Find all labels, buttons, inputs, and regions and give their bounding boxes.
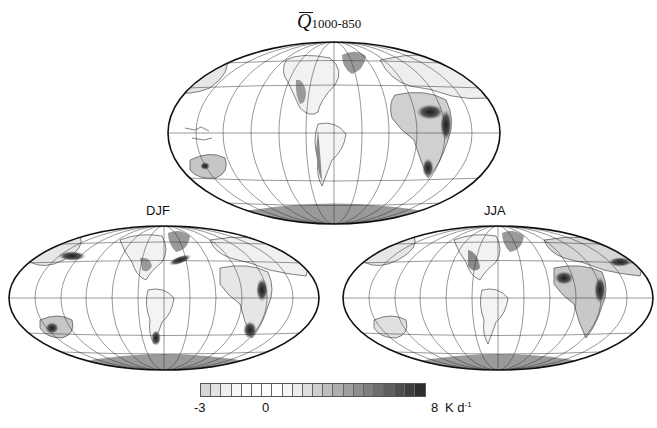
colorbar-cell [232,384,242,396]
map-djf [9,226,319,376]
colorbar-cell [293,384,303,396]
colorbar-unit: K d-1 [445,400,472,415]
colorbar-cell [415,384,425,396]
colorbar-cell [333,384,343,396]
colorbar-cell [384,384,394,396]
colorbar-cell [374,384,384,396]
colorbar-tick-zero: 0 [262,400,269,415]
colorbar-cell [344,384,354,396]
colorbar-tick-max: 8 [431,400,438,415]
colorbar-cell [211,384,221,396]
colorbar-cell [364,384,374,396]
colorbar-tick-min: -3 [194,400,206,415]
colorbar-cell [323,384,333,396]
colorbar-cell [272,384,282,396]
colorbar-cell [405,384,415,396]
colorbar-cell [313,384,323,396]
colorbar-cell [201,384,211,396]
unit-superscript: -1 [465,400,472,409]
colorbar [200,383,426,397]
colorbar-cell [303,384,313,396]
maps-canvas [0,0,657,428]
colorbar-cell [283,384,293,396]
map-annual [168,42,500,230]
colorbar-cell [354,384,364,396]
colorbar-cell [252,384,262,396]
map-jja [343,226,653,376]
unit-main: K d [445,400,465,415]
colorbar-cell [262,384,272,396]
colorbar-cell [221,384,231,396]
colorbar-cell [242,384,252,396]
colorbar-cell [395,384,405,396]
